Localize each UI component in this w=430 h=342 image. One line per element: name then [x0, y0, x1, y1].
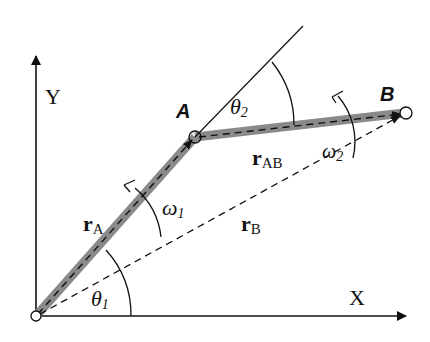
- omega2-label: ω2: [322, 140, 343, 164]
- y-axis-label: Y: [45, 84, 61, 109]
- omega1-label: ω1: [162, 195, 185, 221]
- mechanism-diagram: Y X A B θ1 θ2 ω1 ω2 rA rAB rB: [0, 0, 430, 342]
- point-A-label: A: [175, 100, 190, 122]
- joint-B: [400, 107, 412, 119]
- link-1-bar: [36, 137, 195, 316]
- theta2-label: θ2: [230, 94, 248, 120]
- origin-joint: [31, 311, 41, 321]
- theta1-arc: [106, 250, 131, 316]
- x-axis-label: X: [349, 285, 365, 310]
- vector-rB-dashed: [40, 116, 400, 314]
- rB-label: rB: [241, 211, 261, 237]
- rAB-label: rAB: [252, 145, 283, 171]
- point-B-label: B: [380, 83, 394, 105]
- rA-label: rA: [83, 211, 104, 237]
- theta1-label: θ1: [91, 286, 109, 312]
- theta2-arc: [272, 62, 294, 125]
- link-1-extension-line: [195, 26, 303, 137]
